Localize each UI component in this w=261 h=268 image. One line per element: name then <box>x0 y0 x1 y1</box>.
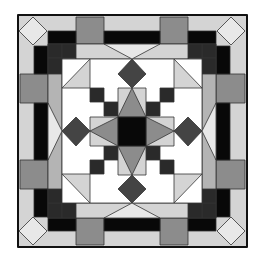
center-square <box>118 117 146 146</box>
quilt-block <box>0 0 261 268</box>
